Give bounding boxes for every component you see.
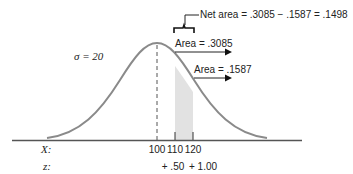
area-label-3085: Area = .3085 — [175, 38, 233, 49]
x-tick-100: 100 — [149, 144, 166, 155]
arrow-3085-head — [225, 49, 232, 56]
z-tick-100: + 1.00 — [189, 161, 218, 172]
x-tick-120: 120 — [185, 144, 202, 155]
brace-icon — [174, 25, 194, 33]
arrow-1587-head — [225, 75, 232, 82]
x-tick-110: 110 — [167, 144, 183, 155]
x-axis-label: X: — [40, 143, 51, 155]
sigma-label: σ = 20 — [74, 50, 104, 62]
normal-distribution-diagram: σ = 20 Net area = .3085 − .1587 = .1498 … — [0, 0, 353, 174]
shaded-area-110-120 — [175, 66, 193, 140]
area-label-1587: Area = .1587 — [194, 64, 252, 75]
z-axis-label: z: — [42, 160, 51, 172]
net-area-label: Net area = .3085 − .1587 = .1498 — [200, 9, 348, 20]
z-tick-050: + .50 — [162, 161, 185, 172]
